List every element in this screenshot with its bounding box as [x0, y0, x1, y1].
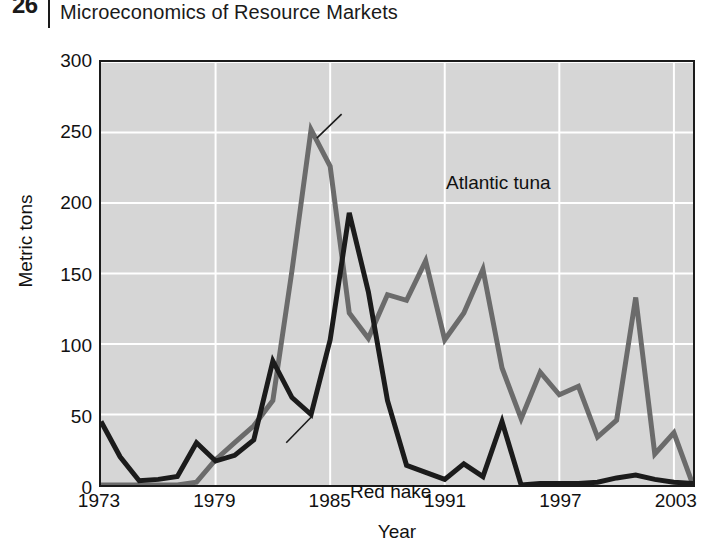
- y-tick-label: 200: [46, 193, 92, 212]
- page-header: 26 Microeconomics of Resource Markets: [0, 0, 720, 34]
- x-tick-label: 2003: [631, 491, 720, 510]
- y-tick-label: 100: [46, 336, 92, 355]
- x-axis-title: Year: [99, 521, 695, 543]
- x-tick-label: 1991: [400, 491, 490, 510]
- running-head-title: Microeconomics of Resource Markets: [60, 1, 398, 24]
- y-tick-label: 250: [46, 122, 92, 141]
- page-number: 26: [12, 0, 38, 19]
- x-tick-label: 1997: [515, 491, 605, 510]
- y-tick-label: 150: [46, 265, 92, 284]
- x-tick-label: 1973: [54, 491, 144, 510]
- series-label-atlantic-tuna: Atlantic tuna: [446, 172, 551, 194]
- y-axis-tick-labels: 050100150200250300: [40, 60, 92, 487]
- x-tick-label: 1979: [169, 491, 259, 510]
- y-tick-label: 50: [46, 407, 92, 426]
- y-axis-title: Metric tons: [15, 171, 37, 311]
- y-tick-label: 300: [46, 51, 92, 70]
- plot-area: Atlantic tuna Red hake: [99, 60, 695, 487]
- header-divider: [48, 0, 50, 28]
- x-axis-tick-labels: 197319791985199119972003: [99, 491, 695, 521]
- line-chart-figure: 050100150200250300 Metric tons Atlantic …: [0, 34, 720, 547]
- x-tick-label: 1985: [285, 491, 375, 510]
- plot-svg: [101, 62, 693, 485]
